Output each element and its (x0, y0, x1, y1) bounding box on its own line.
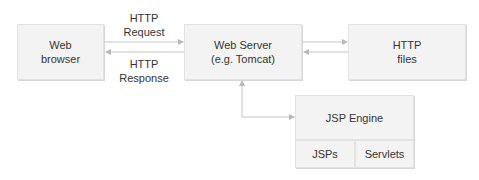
http-files-label-2: files (393, 52, 422, 66)
servlets-label: Servlets (365, 147, 405, 161)
jsps-label: JSPs (312, 147, 338, 161)
jsp-engine-label: JSP Engine (326, 111, 383, 125)
http-response-label: HTTP Response (104, 57, 184, 85)
http-files-label-1: HTTP (393, 38, 422, 52)
jsp-engine-node: JSP Engine (295, 95, 414, 140)
web-server-node: Web Server (e.g. Tomcat) (184, 24, 302, 80)
web-server-label-2: (e.g. Tomcat) (211, 52, 275, 66)
jsps-node: JSPs (295, 140, 355, 168)
web-browser-label-2: browser (41, 52, 80, 66)
servlets-node: Servlets (355, 140, 414, 168)
http-request-label: HTTP Request (104, 11, 184, 39)
server-to-jsp-arrow (242, 116, 294, 117)
web-browser-node: Web browser (17, 24, 104, 80)
http-files-node: HTTP files (348, 24, 466, 80)
web-server-label-1: Web Server (211, 38, 275, 52)
web-browser-label-1: Web (41, 38, 80, 52)
